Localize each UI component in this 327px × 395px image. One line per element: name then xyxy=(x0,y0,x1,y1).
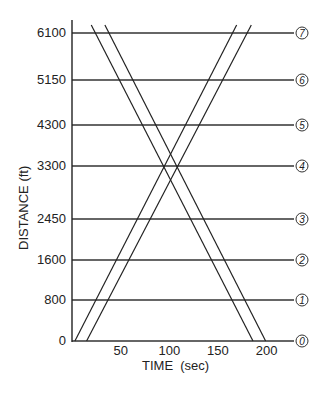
station-markers: 01234567 xyxy=(296,27,308,347)
time-space-diagram: 0800160024503300430051506100 50100150200… xyxy=(0,0,327,395)
trajectory-line xyxy=(75,25,237,341)
y-tick-label: 0 xyxy=(59,333,66,348)
trajectory-lines xyxy=(75,25,266,341)
x-tick-label: 200 xyxy=(256,343,278,358)
station-number: 0 xyxy=(299,336,305,347)
station-lines xyxy=(72,33,294,341)
station-number: 6 xyxy=(299,75,305,86)
y-tick-labels: 0800160024503300430051506100 xyxy=(37,25,66,348)
y-tick-label: 2450 xyxy=(37,211,66,226)
y-tick-label: 4300 xyxy=(37,117,66,132)
y-tick-label: 5150 xyxy=(37,72,66,87)
y-tick-label: 3300 xyxy=(37,158,66,173)
station-number: 5 xyxy=(299,120,305,131)
station-number: 1 xyxy=(299,295,305,306)
x-tick-labels: 50100150200 xyxy=(113,343,277,358)
y-tick-label: 1600 xyxy=(37,252,66,267)
trajectory-line xyxy=(105,25,266,341)
y-axis-title: DISTANCE (ft) xyxy=(16,166,31,250)
trajectory-line xyxy=(91,25,253,341)
y-tick-label: 800 xyxy=(44,292,66,307)
station-number: 7 xyxy=(299,28,305,39)
trajectory-line xyxy=(87,25,252,341)
station-number: 3 xyxy=(299,214,305,225)
x-tick-label: 100 xyxy=(158,343,180,358)
x-axis-title: TIME (sec) xyxy=(142,358,209,373)
x-tick-label: 150 xyxy=(207,343,229,358)
x-tick-label: 50 xyxy=(113,343,127,358)
station-number: 4 xyxy=(299,161,305,172)
y-tick-label: 6100 xyxy=(37,25,66,40)
station-number: 2 xyxy=(298,255,305,266)
